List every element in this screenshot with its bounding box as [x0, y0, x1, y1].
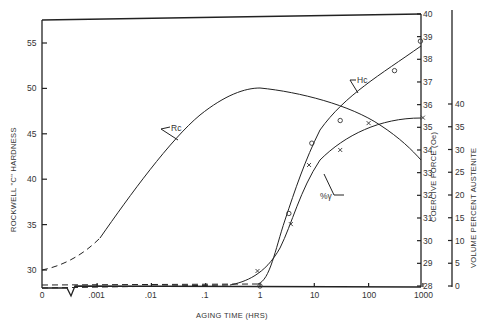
hc-curve: [258, 46, 421, 284]
gamma-data-point: [338, 148, 342, 152]
austenite-tick-label: 0: [455, 281, 460, 291]
x-tick-label: 100: [362, 290, 376, 300]
left-axis-title: ROCKWELL "C" HARDNESS: [9, 127, 18, 232]
hc-data-point: [392, 68, 396, 72]
svg-text:Rc: Rc: [171, 123, 182, 133]
coercive-tick-label: 35: [423, 122, 433, 132]
left-tick-label: 45: [27, 129, 37, 139]
coercive-tick-label: 36: [423, 100, 433, 110]
x-tick-label: 0: [40, 290, 45, 300]
left-tick-label: 30: [27, 265, 37, 275]
x-tick-label: 10: [310, 290, 320, 300]
data-markers: [256, 39, 425, 288]
austenite-tick-label: 15: [455, 213, 465, 223]
left-tick-label: 50: [27, 83, 37, 93]
left-tick-label: 40: [27, 174, 37, 184]
left-tick-label: 35: [27, 220, 37, 230]
coercive-tick-label: 30: [423, 236, 433, 246]
austenite-tick-label: 5: [455, 258, 460, 268]
aging-chart: 303540455055 28293031323334353637383940 …: [0, 0, 488, 328]
x-tick-label: 1000: [414, 290, 433, 300]
austenite-tick-label: 30: [455, 145, 465, 155]
gamma-curve: [230, 118, 421, 285]
austenite-axis-ticks: 0510152025303540: [448, 99, 465, 291]
x-tick-label: .1: [201, 290, 208, 300]
coercive-axis-title: COERCIVE FORCE (Oe): [429, 132, 438, 222]
gamma-label: %γ: [320, 174, 344, 201]
svg-text:Hc: Hc: [357, 75, 368, 85]
axes: [42, 10, 452, 296]
gamma-data-point: [256, 269, 260, 273]
rc-label: Rc: [161, 123, 182, 140]
gamma-data-point: [307, 163, 311, 167]
svg-text:%γ: %γ: [320, 191, 333, 201]
x-axis-title: AGING TIME (HRS): [196, 311, 268, 320]
austenite-tick-label: 10: [455, 236, 465, 246]
austenite-axis-title: VOLUME PERCENT AUSTENITE: [469, 148, 478, 268]
rc-curve: [100, 88, 421, 238]
austenite-tick-label: 20: [455, 190, 465, 200]
x-tick-label: .001: [88, 290, 105, 300]
gamma-data-point: [367, 121, 371, 125]
austenite-tick-label: 35: [455, 122, 465, 132]
hc-data-point: [338, 118, 342, 122]
left-axis-ticks: 303540455055: [27, 38, 47, 275]
x-tick-label: 1: [258, 290, 263, 300]
coercive-tick-label: 39: [423, 32, 433, 42]
x-tick-label: .01: [145, 290, 157, 300]
rc-curve-dashed: [42, 238, 100, 270]
coercive-tick-label: 29: [423, 258, 433, 268]
austenite-tick-label: 25: [455, 167, 465, 177]
coercive-tick-label: 37: [423, 77, 433, 87]
coercive-tick-label: 38: [423, 54, 433, 64]
austenite-tick-label: 40: [455, 99, 465, 109]
left-tick-label: 55: [27, 38, 37, 48]
coercive-tick-label: 40: [423, 9, 433, 19]
